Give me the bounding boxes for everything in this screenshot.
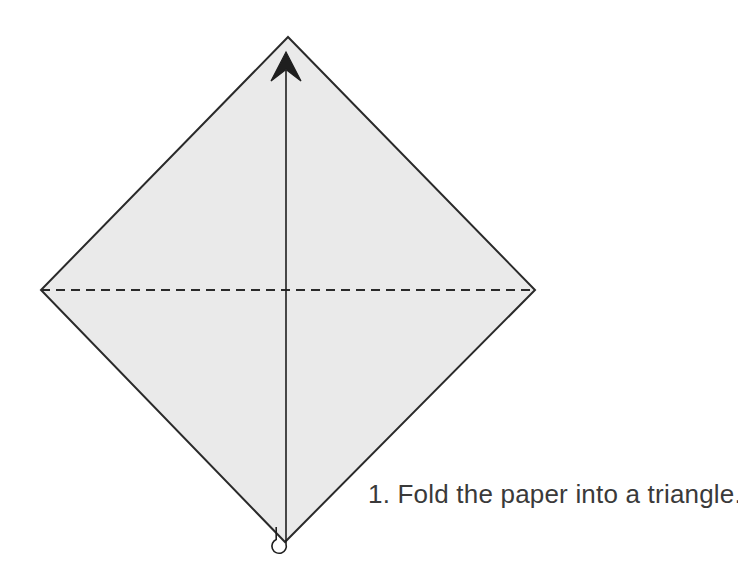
instruction-caption: 1. Fold the paper into a triangle.	[368, 477, 738, 517]
instruction-caption-text: 1. Fold the paper into a triangle.	[368, 477, 738, 511]
origami-diagram-root: 1. Fold the paper into a triangle.	[0, 0, 738, 563]
